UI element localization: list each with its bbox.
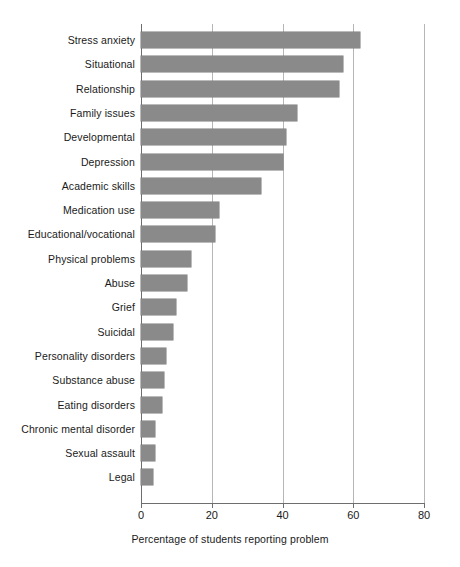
- category-label: Abuse: [0, 275, 135, 291]
- bar: [141, 178, 261, 194]
- category-label: Stress anxiety: [0, 32, 135, 48]
- bar: [141, 56, 343, 72]
- bar-row: [141, 32, 360, 48]
- category-label: Physical problems: [0, 251, 135, 267]
- bar-row: [141, 397, 162, 413]
- bar-row: [141, 324, 173, 340]
- bar: [141, 81, 339, 97]
- bar-chart: Stress anxietySituationalRelationshipFam…: [0, 0, 460, 567]
- bar-row: [141, 372, 164, 388]
- bar: [141, 154, 283, 170]
- bar-row: [141, 178, 261, 194]
- bar-row: [141, 129, 286, 145]
- category-label: Chronic mental disorder: [0, 421, 135, 437]
- bar-row: [141, 154, 283, 170]
- bar: [141, 324, 173, 340]
- plot-area: [141, 24, 424, 503]
- bar-row: [141, 348, 166, 364]
- x-tick-mark: [353, 503, 354, 508]
- x-tick-label: 0: [121, 509, 161, 521]
- category-label: Grief: [0, 299, 135, 315]
- bar: [141, 299, 176, 315]
- category-label: Suicidal: [0, 324, 135, 340]
- bar: [141, 445, 155, 461]
- bar: [141, 421, 155, 437]
- category-label: Sexual assault: [0, 445, 135, 461]
- bar: [141, 32, 360, 48]
- category-label: Family issues: [0, 105, 135, 121]
- category-label: Educational/vocational: [0, 226, 135, 242]
- bar: [141, 469, 153, 485]
- bar-row: [141, 81, 339, 97]
- bar: [141, 251, 191, 267]
- bar: [141, 129, 286, 145]
- x-axis-title: Percentage of students reporting problem: [0, 533, 460, 545]
- category-label: Depression: [0, 154, 135, 170]
- bar: [141, 348, 166, 364]
- x-tick-label: 40: [263, 509, 303, 521]
- x-tick-label: 60: [333, 509, 373, 521]
- x-tick-label: 80: [404, 509, 444, 521]
- category-axis-labels: Stress anxietySituationalRelationshipFam…: [0, 24, 135, 503]
- x-tick-mark: [212, 503, 213, 508]
- category-label: Eating disorders: [0, 397, 135, 413]
- x-tick-mark: [141, 503, 142, 508]
- x-tick-label: 20: [192, 509, 232, 521]
- category-label: Relationship: [0, 81, 135, 97]
- bar-row: [141, 299, 176, 315]
- bar: [141, 202, 219, 218]
- bar-row: [141, 202, 219, 218]
- category-label: Personality disorders: [0, 348, 135, 364]
- bar: [141, 105, 297, 121]
- x-tick-mark: [283, 503, 284, 508]
- bar: [141, 226, 215, 242]
- category-label: Academic skills: [0, 178, 135, 194]
- bar-row: [141, 445, 155, 461]
- category-label: Legal: [0, 469, 135, 485]
- bar-row: [141, 105, 297, 121]
- bar-row: [141, 251, 191, 267]
- gridline: [424, 24, 425, 503]
- bar-row: [141, 226, 215, 242]
- bar: [141, 275, 187, 291]
- bar-row: [141, 275, 187, 291]
- bar-row: [141, 469, 153, 485]
- bar: [141, 372, 164, 388]
- category-label: Developmental: [0, 129, 135, 145]
- category-label: Medication use: [0, 202, 135, 218]
- bar-row: [141, 56, 343, 72]
- bar: [141, 397, 162, 413]
- bar-row: [141, 421, 155, 437]
- category-label: Situational: [0, 56, 135, 72]
- category-label: Substance abuse: [0, 372, 135, 388]
- bar-series: [141, 24, 424, 503]
- x-tick-mark: [424, 503, 425, 508]
